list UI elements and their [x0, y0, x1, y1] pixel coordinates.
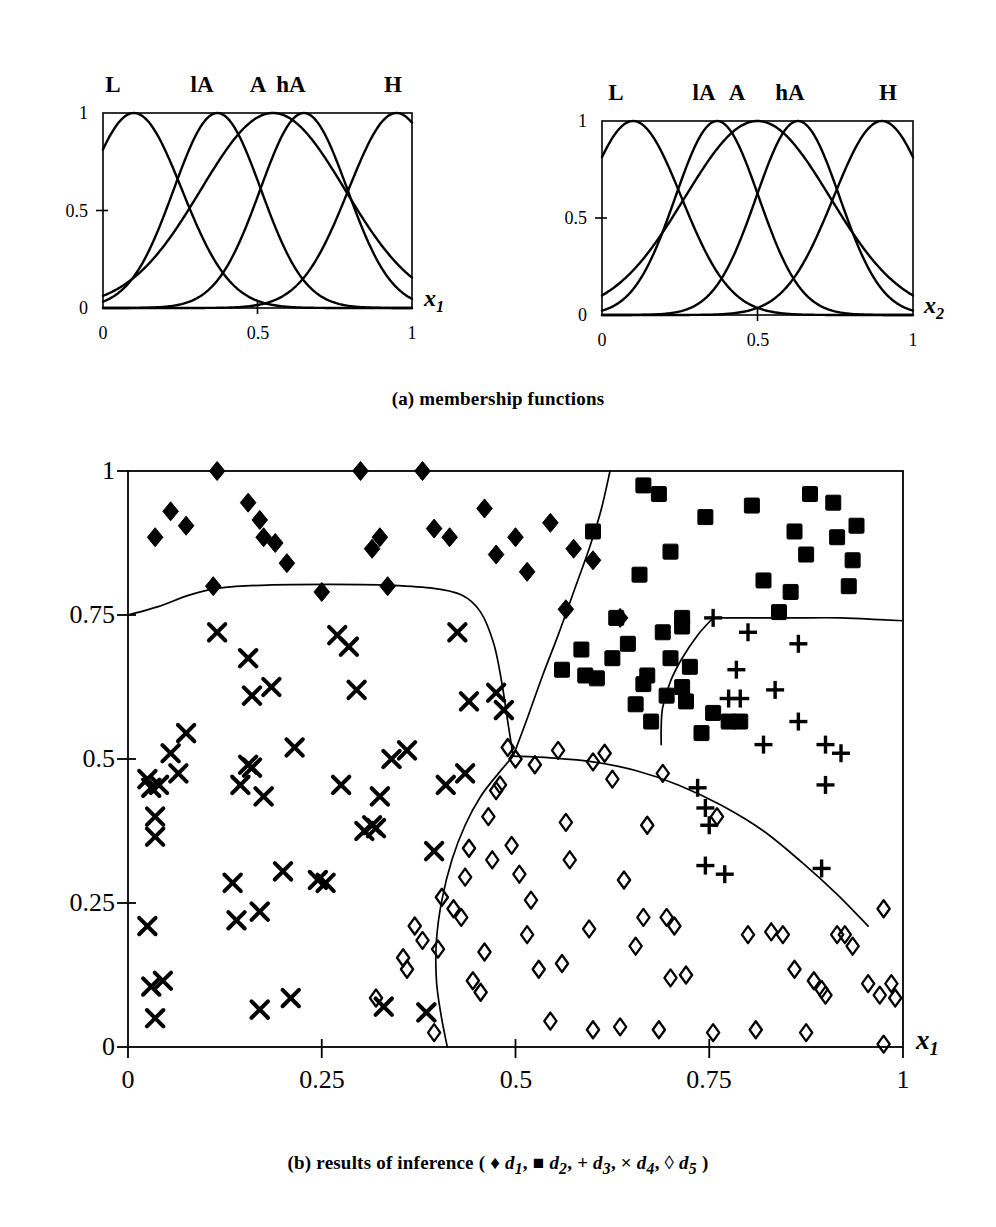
data-point-d5	[428, 1024, 440, 1041]
data-point-d2	[578, 668, 593, 683]
data-point-d5	[742, 926, 754, 943]
data-point-d2	[756, 573, 771, 588]
axis-letter: x	[916, 1025, 930, 1055]
data-point-d1	[279, 554, 295, 573]
data-point-d2	[698, 510, 713, 525]
axis-subscript: 2	[936, 304, 944, 323]
data-point-d3	[696, 857, 714, 875]
scatter-ytick-1: 1	[55, 456, 115, 486]
data-point-d4	[252, 1001, 268, 1017]
data-point-d2	[659, 688, 674, 703]
mf-ytick-0-x1: 0	[58, 298, 88, 319]
data-point-d5	[521, 926, 533, 943]
data-point-d2	[644, 714, 659, 729]
series-d2	[555, 478, 865, 741]
data-point-d4	[438, 777, 454, 793]
scatter-ytick-05: 0.5	[35, 744, 115, 774]
data-point-d2	[632, 567, 647, 582]
data-point-d2	[830, 530, 845, 545]
data-point-d4	[488, 685, 504, 701]
data-point-d2	[609, 610, 624, 625]
data-point-d4	[461, 693, 477, 709]
scatter-xtick-075: 0.75	[686, 1065, 732, 1095]
data-point-d2	[620, 636, 635, 651]
data-point-d5	[506, 837, 518, 854]
data-point-d2	[651, 487, 666, 502]
data-point-d5	[409, 918, 421, 935]
data-point-d3	[727, 661, 745, 679]
data-point-d1	[508, 528, 524, 547]
legend-label-d2: d2	[549, 1152, 567, 1173]
data-point-d2	[655, 625, 670, 640]
mf-set-label-H-x2: H	[879, 80, 897, 106]
data-point-d5	[529, 756, 541, 773]
data-point-d5	[556, 955, 568, 972]
mf-set-label-A-x2: A	[729, 80, 746, 106]
scatter-ytick-0: 0	[55, 1032, 115, 1062]
data-point-d5	[711, 808, 723, 825]
mf-xtick-05-x1: 0.5	[247, 323, 270, 344]
caption-a: (a) membership functions	[0, 388, 996, 410]
data-point-d5	[397, 949, 409, 966]
data-point-d4	[240, 650, 256, 666]
data-point-d5	[564, 851, 576, 868]
data-point-d2	[574, 642, 589, 657]
legend-symbol-d5: ◊	[665, 1152, 675, 1173]
data-point-d4	[139, 918, 155, 934]
data-point-d2	[628, 697, 643, 712]
data-point-d5	[630, 938, 642, 955]
data-point-d5	[819, 987, 831, 1004]
scatter-xtick-0: 0	[122, 1065, 135, 1095]
data-point-d4	[162, 745, 178, 761]
data-point-d2	[679, 694, 694, 709]
data-point-d1	[543, 513, 559, 532]
data-point-d2	[826, 495, 841, 510]
data-point-d1	[163, 502, 179, 521]
data-point-d2	[803, 487, 818, 502]
data-point-d4	[426, 843, 442, 859]
data-point-d5	[416, 932, 428, 949]
data-point-d1	[519, 562, 535, 581]
data-point-d4	[286, 739, 302, 755]
data-point-d4	[170, 765, 186, 781]
data-point-d4	[147, 1010, 163, 1026]
data-point-d5	[614, 1018, 626, 1035]
mf-set-label-hA-x1: hA	[276, 72, 305, 98]
data-point-d5	[432, 941, 444, 958]
data-point-d5	[490, 782, 502, 799]
data-point-d2	[694, 726, 709, 741]
series-d4	[139, 624, 512, 1026]
mf-xtick-1-x1: 1	[408, 323, 417, 344]
scatter-xtick-05: 0.5	[500, 1065, 533, 1095]
axis-subscript: 1	[436, 297, 444, 316]
data-point-d5	[459, 869, 471, 886]
data-point-d5	[482, 808, 494, 825]
legend-symbol-d1: ♦	[490, 1152, 500, 1173]
data-point-d5	[533, 961, 545, 978]
mf-ytick-0-x2: 0	[557, 305, 587, 326]
scatter-axis-label-x1: x1	[916, 1025, 939, 1060]
data-point-d2	[636, 478, 651, 493]
data-point-d2	[682, 659, 697, 674]
data-point-d3	[789, 635, 807, 653]
data-point-d2	[849, 518, 864, 533]
inference-scatter-panel: 1 0.75 0.5 0.25 0 0 0.25 0.5 0.75 1 x1	[0, 440, 996, 1140]
legend-symbol-d4: ×	[621, 1152, 632, 1173]
data-point-d4	[496, 702, 512, 718]
data-point-d5	[862, 975, 874, 992]
mf-axis-label-x2: x2	[924, 292, 944, 324]
data-point-d1	[147, 528, 163, 547]
data-point-d4	[255, 788, 271, 804]
data-point-d4	[275, 863, 291, 879]
mf-set-label-hA-x2: hA	[775, 80, 804, 106]
mf-set-label-L-x1: L	[105, 72, 120, 98]
data-point-d2	[783, 584, 798, 599]
data-point-d5	[637, 909, 649, 926]
scatter-xtick-025: 0.25	[299, 1065, 345, 1095]
data-point-d1	[205, 577, 221, 596]
data-point-d3	[739, 623, 757, 641]
data-point-d3	[817, 776, 835, 794]
data-point-d5	[831, 926, 843, 943]
data-point-d3	[832, 744, 850, 762]
data-point-d1	[252, 510, 268, 529]
